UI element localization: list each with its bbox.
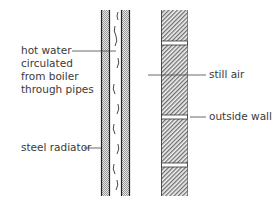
water-flow-icon xyxy=(113,12,119,190)
still-air-label: still air xyxy=(209,68,244,81)
steel-radiator-label: steel radiator xyxy=(21,141,91,154)
outside-wall xyxy=(161,10,188,196)
radiator-left-panel xyxy=(101,10,110,196)
mortar-joint xyxy=(162,163,188,167)
hot-water-label: hot water circulated from boiler through… xyxy=(21,44,94,96)
radiator-wall-diagram xyxy=(0,0,277,206)
radiator-right-panel xyxy=(121,10,130,196)
mortar-joint xyxy=(162,41,188,45)
outside-wall-label: outside wall xyxy=(209,110,272,123)
mortar-joint xyxy=(162,115,188,119)
